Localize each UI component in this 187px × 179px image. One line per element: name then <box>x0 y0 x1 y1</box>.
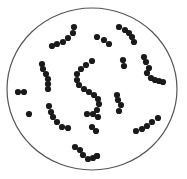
coccus-dot <box>60 39 66 45</box>
coccus-dot <box>70 30 76 36</box>
coccus-dot <box>89 58 95 64</box>
left-single <box>26 111 32 117</box>
coccus-dot <box>21 89 27 95</box>
right-single <box>94 153 100 159</box>
top-right-chain <box>116 24 137 45</box>
coccus-dot <box>94 153 100 159</box>
lower-left-chain <box>46 103 71 131</box>
center-s-chain <box>74 58 102 113</box>
coccus-dot <box>65 35 71 41</box>
coccus-dot <box>83 62 89 68</box>
coccus-dot <box>50 114 56 120</box>
coccus-dot <box>133 128 139 134</box>
coccus-dot <box>155 115 161 121</box>
coccus-dot <box>121 63 127 69</box>
coccus-dot <box>54 119 60 125</box>
coccus-dot <box>96 101 102 107</box>
coccus-dot <box>78 66 84 72</box>
right-center-chain <box>114 92 124 114</box>
coccus-dot <box>59 124 65 130</box>
lower-right-chain <box>133 115 161 134</box>
coccus-dot <box>80 152 86 158</box>
coccus-dot <box>149 119 155 125</box>
coccus-dot <box>26 111 32 117</box>
center-pair-a <box>84 111 96 117</box>
mid-pair <box>120 57 127 69</box>
field-of-view-circle <box>7 8 177 170</box>
coccus-dot <box>46 103 52 109</box>
lower-single <box>95 114 101 120</box>
coccus-dot <box>84 111 90 117</box>
right-chain <box>141 54 166 85</box>
coccus-dot <box>116 108 122 114</box>
bottom-chain <box>72 144 100 162</box>
coccus-dot <box>160 79 166 85</box>
coccus-dot <box>131 39 137 45</box>
coccus-dot <box>65 125 71 131</box>
left-vertical-chain <box>39 61 51 92</box>
coccus-dot <box>93 128 99 134</box>
coccus-dot <box>116 24 122 30</box>
coccus-dot <box>143 59 149 65</box>
coccus-dot <box>106 41 112 47</box>
top-left-chain <box>49 24 77 49</box>
center-pair-b <box>89 124 99 134</box>
coccus-dot <box>45 86 51 92</box>
coccus-dot <box>76 82 82 88</box>
coccus-dot <box>94 34 100 40</box>
bacteria-chains <box>15 24 166 162</box>
coccus-dot <box>74 71 80 77</box>
top-center-chain <box>94 34 112 47</box>
microscope-field-diagram <box>0 0 187 179</box>
coccus-dot <box>144 70 150 76</box>
coccus-dot <box>71 24 77 30</box>
coccus-dot <box>95 114 101 120</box>
coccus-dot <box>101 37 107 43</box>
coccus-dot <box>54 41 60 47</box>
coccus-dot <box>144 123 150 129</box>
coccus-dot <box>118 102 124 108</box>
left-pair <box>15 89 27 95</box>
coccus-dot <box>120 57 126 63</box>
coccus-dot <box>15 89 21 95</box>
